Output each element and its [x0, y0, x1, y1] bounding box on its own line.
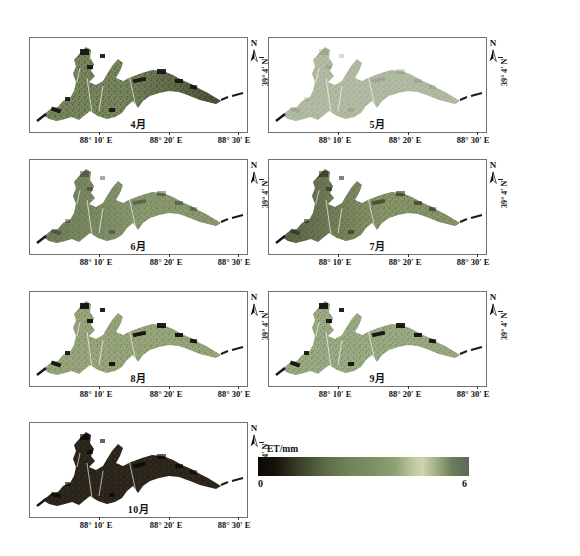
north-arrow-icon	[249, 303, 259, 318]
colorbar-scale: 0 6	[258, 478, 469, 490]
longitude-label: 88° 30′ E	[199, 135, 269, 145]
north-label: N	[487, 292, 499, 302]
longitude-label: 88° 10′ E	[300, 135, 370, 145]
longitude-label: 88° 30′ E	[438, 257, 508, 267]
longitude-label: 88° 10′ E	[61, 257, 131, 267]
colorbar-min: 0	[258, 478, 263, 489]
month-label: 8月	[30, 370, 247, 385]
month-label: 10月	[30, 501, 247, 516]
north-label: N	[248, 423, 260, 433]
north-arrow-icon	[249, 171, 259, 186]
month-label: 4月	[30, 116, 247, 131]
longitude-label: 88° 30′ E	[199, 257, 269, 267]
figure-canvas: 4月 N 39° 4′ N 88° 10′ E 88° 20′ E 88° 30…	[0, 0, 580, 556]
colorbar-gradient	[258, 457, 469, 476]
longitude-label: 88° 30′ E	[199, 389, 269, 399]
north-arrow: N	[487, 292, 499, 318]
longitude-label: 88° 20′ E	[370, 389, 440, 399]
longitude-label: 88° 10′ E	[61, 389, 131, 399]
longitude-label: 88° 30′ E	[199, 520, 269, 530]
map-panel-month-10: 10月 N 39° 4′ N 88° 10′ E 88° 20′ E 88° 3…	[29, 422, 248, 518]
latitude-label: 39° 4′ N	[500, 59, 509, 86]
north-arrow: N	[248, 292, 260, 318]
north-arrow-icon	[249, 49, 259, 64]
north-arrow: N	[487, 38, 499, 64]
north-arrow-icon	[488, 49, 498, 64]
north-label: N	[248, 292, 260, 302]
map-panel-month-9: 9月 N 39° 4′ N 88° 10′ E 88° 20′ E 88° 30…	[268, 291, 487, 387]
map-panel-month-7: 7月 N 39° 4′ N 88° 10′ E 88° 20′ E 88° 30…	[268, 159, 487, 255]
map-panel-month-6: 6月 N 39° 4′ N 88° 10′ E 88° 20′ E 88° 30…	[29, 159, 248, 255]
month-label: 5月	[269, 116, 486, 131]
colorbar: ET/mm 0 6	[258, 444, 469, 490]
map-panel-month-8: 8月 N 39° 4′ N 88° 10′ E 88° 20′ E 88° 30…	[29, 291, 248, 387]
longitude-label: 88° 20′ E	[370, 257, 440, 267]
month-label: 6月	[30, 238, 247, 253]
north-label: N	[248, 38, 260, 48]
longitude-label: 88° 30′ E	[438, 135, 508, 145]
month-label: 9月	[269, 370, 486, 385]
longitude-label: 88° 10′ E	[61, 135, 131, 145]
longitude-label: 88° 10′ E	[61, 520, 131, 530]
longitude-label: 88° 20′ E	[131, 135, 201, 145]
north-label: N	[487, 160, 499, 170]
longitude-label: 88° 10′ E	[300, 389, 370, 399]
north-arrow: N	[248, 160, 260, 186]
longitude-label: 88° 20′ E	[131, 257, 201, 267]
map-panel-month-5: 5月 N 39° 4′ N 88° 10′ E 88° 20′ E 88° 30…	[268, 37, 487, 133]
longitude-label: 88° 10′ E	[300, 257, 370, 267]
latitude-label: 39° 4′ N	[500, 181, 509, 208]
map-panel-month-4: 4月 N 39° 4′ N 88° 10′ E 88° 20′ E 88° 30…	[29, 37, 248, 133]
longitude-label: 88° 30′ E	[438, 389, 508, 399]
north-label: N	[487, 38, 499, 48]
month-label: 7月	[269, 238, 486, 253]
longitude-label: 88° 20′ E	[131, 520, 201, 530]
north-label: N	[248, 160, 260, 170]
north-arrow-icon	[488, 171, 498, 186]
longitude-label: 88° 20′ E	[370, 135, 440, 145]
longitude-label: 88° 20′ E	[131, 389, 201, 399]
latitude-label: 39° 4′ N	[500, 313, 509, 340]
colorbar-label: ET/mm	[267, 444, 469, 454]
north-arrow-icon	[488, 303, 498, 318]
north-arrow: N	[248, 38, 260, 64]
colorbar-max: 6	[462, 478, 467, 489]
north-arrow: N	[487, 160, 499, 186]
